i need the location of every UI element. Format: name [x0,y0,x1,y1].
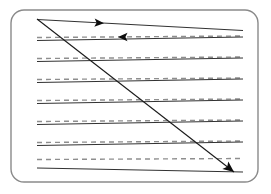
figure-background [0,0,271,194]
coverage-path-figure [0,0,271,194]
sweep-band-7-dashed-centerline [37,159,243,160]
diagram-canvas [0,0,271,194]
